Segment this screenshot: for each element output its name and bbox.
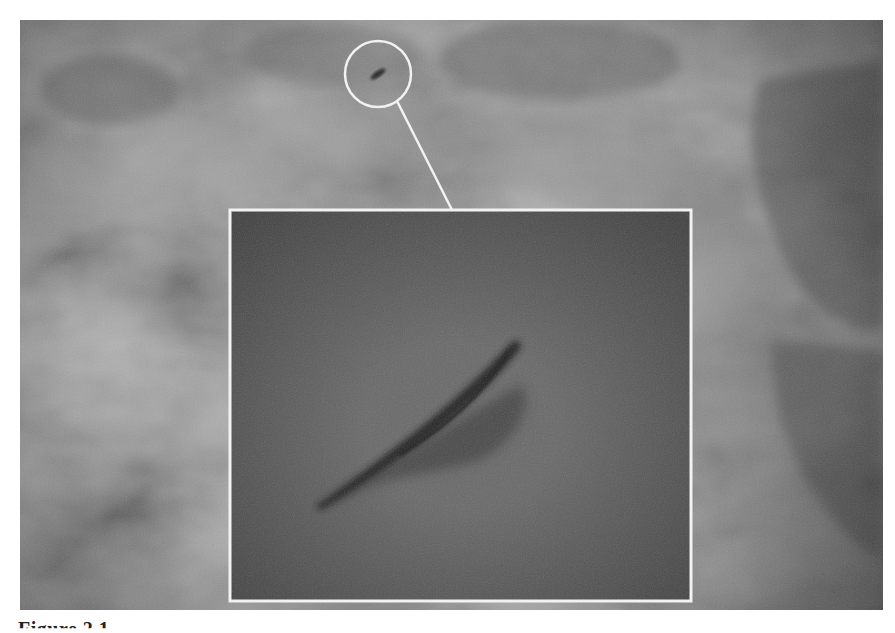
photo-canvas bbox=[20, 20, 883, 610]
figure-caption: Figure 2.1 bbox=[18, 618, 109, 633]
figure: Figure 2.1 bbox=[0, 0, 895, 633]
sky-photograph bbox=[20, 20, 883, 610]
inset-enlargement bbox=[230, 210, 691, 601]
